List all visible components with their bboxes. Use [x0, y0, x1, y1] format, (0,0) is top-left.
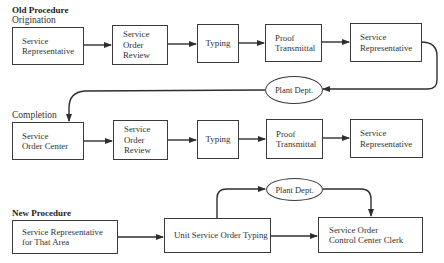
step-label: Proof Transmittal [276, 129, 316, 150]
step-label: Service Order Control Center Clerk [329, 225, 403, 246]
step-label: Proof Transmittal [275, 33, 315, 54]
comp-step-service-representative: Service Representative [350, 119, 423, 158]
new-step-unit-service-order-typing: Unit Service Order Typing [164, 218, 271, 253]
handoff-label: Plant Dept. [275, 85, 313, 95]
orig-step-service-representative: Service Representative [12, 27, 84, 65]
comp-step-service-order-center: Service Order Center [12, 122, 84, 160]
arrow-new-to-plant [217, 189, 265, 218]
completion-label: Completion [12, 110, 57, 121]
new-step-service-representative-area: Service Representative for That Area [12, 220, 118, 254]
comp-step-proof-transmittal: Proof Transmittal [266, 119, 323, 159]
step-label: Typing [206, 38, 231, 49]
plant-dept-handoff: Plant Dept. [265, 76, 323, 104]
step-label: Service Representative for That Area [22, 227, 103, 248]
plant-dept-branch: Plant Dept. [266, 178, 323, 201]
orig-step-service-representative-final: Service Representative [350, 23, 422, 62]
arrow-plant-to-clerk [323, 189, 371, 216]
branch-label: Plant Dept. [275, 185, 313, 195]
step-label: Typing [206, 134, 231, 145]
new-step-control-center-clerk: Service Order Control Center Clerk [318, 217, 423, 253]
orig-step-proof-transmittal: Proof Transmittal [265, 24, 322, 62]
origination-label: Origination [12, 15, 56, 26]
comp-step-typing: Typing [197, 120, 239, 159]
arrow-to-completion [69, 90, 265, 121]
step-label: Service Representative [360, 128, 412, 149]
step-label: Service Order Center [22, 131, 68, 152]
comp-step-service-order-review: Service Order Review [113, 120, 168, 160]
step-label: Service Order Review [123, 29, 150, 61]
step-label: Unit Service Order Typing [174, 230, 268, 241]
step-label: Service Order Review [124, 124, 151, 156]
orig-step-service-order-review: Service Order Review [112, 25, 168, 65]
new-procedure-title: New Procedure [12, 208, 71, 219]
step-label: Service Representative [22, 36, 74, 57]
orig-step-typing: Typing [197, 24, 239, 63]
step-label: Service Representative [360, 32, 412, 53]
